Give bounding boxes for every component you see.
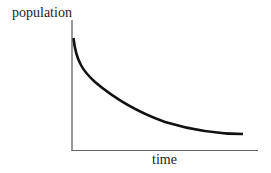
y-axis-label: population bbox=[12, 5, 72, 21]
x-axis-label: time bbox=[152, 152, 177, 168]
population-curve bbox=[74, 38, 244, 134]
population-decay-chart: population time bbox=[0, 0, 271, 173]
chart-plot-area bbox=[0, 0, 271, 173]
